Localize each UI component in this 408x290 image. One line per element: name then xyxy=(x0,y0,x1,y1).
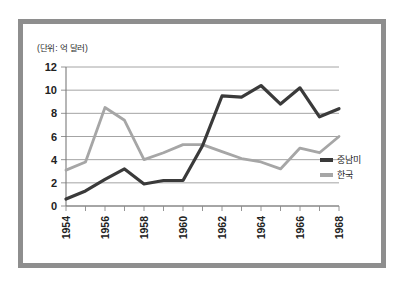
x-axis-tick-label: 1960 xyxy=(177,216,189,240)
legend-swatch-series-1 xyxy=(320,173,333,177)
legend-swatch-series-0 xyxy=(320,158,333,162)
figure-root: (단위: 억 달러) 02468101219541956195819601962… xyxy=(0,0,408,290)
y-axis-tick-label: 10 xyxy=(45,84,57,96)
x-axis-tick-label: 1968 xyxy=(333,216,345,240)
chart-legend: 중남미 한국 xyxy=(320,152,376,182)
series-line-0 xyxy=(66,86,339,200)
x-axis-tick-label: 1954 xyxy=(60,216,72,240)
y-axis-tick-label: 4 xyxy=(51,154,58,166)
y-axis-tick-label: 2 xyxy=(51,177,57,189)
y-axis-tick-label: 0 xyxy=(51,200,57,212)
legend-label-series-1: 한국 xyxy=(337,168,353,181)
legend-item-1: 한국 xyxy=(320,167,376,182)
line-chart-plot: 0246810121954195619581960196219641966196… xyxy=(23,24,381,263)
x-axis-tick-label: 1958 xyxy=(138,216,150,240)
y-axis-tick-label: 12 xyxy=(45,61,57,73)
x-axis-tick-label: 1966 xyxy=(294,216,306,240)
x-axis-tick-label: 1962 xyxy=(216,216,228,240)
y-axis-tick-label: 8 xyxy=(51,107,57,119)
x-axis-tick-label: 1964 xyxy=(255,216,267,240)
legend-item-0: 중남미 xyxy=(320,152,376,167)
series-line-1 xyxy=(66,108,339,171)
legend-label-series-0: 중남미 xyxy=(337,153,360,166)
x-axis-tick-label: 1956 xyxy=(99,216,111,240)
y-axis-tick-label: 6 xyxy=(51,131,57,143)
chart-inner: (단위: 억 달러) 02468101219541956195819601962… xyxy=(23,24,381,263)
chart-frame: (단위: 억 달러) 02468101219541956195819601962… xyxy=(18,19,386,268)
